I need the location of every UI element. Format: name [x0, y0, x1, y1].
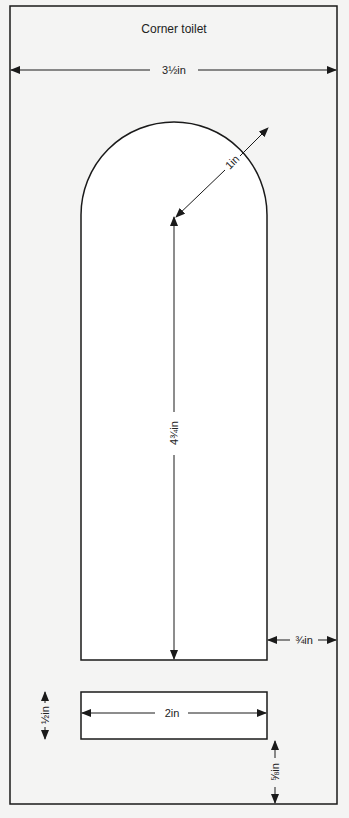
body-height-label: 4¾in — [168, 421, 180, 445]
slot-height-label: ½in — [39, 706, 51, 724]
corner-toilet-diagram: Corner toilet 3½in 1in 4¾in ¾in — [0, 0, 349, 818]
diagram-sheet: Corner toilet 3½in 1in 4¾in ¾in — [0, 0, 349, 818]
side-gap-label: ¾in — [295, 634, 313, 646]
slot-width-label: 2in — [165, 707, 180, 719]
overall-width-label: 3½in — [162, 64, 186, 76]
diagram-title: Corner toilet — [141, 22, 207, 36]
bottom-gap-label: ⅝in — [269, 763, 281, 781]
